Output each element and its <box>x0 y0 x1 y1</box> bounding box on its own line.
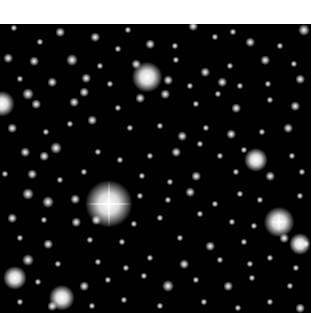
star <box>185 187 195 197</box>
star <box>22 188 34 200</box>
star <box>231 103 241 113</box>
star <box>265 171 275 181</box>
star <box>10 24 17 31</box>
star <box>211 33 218 40</box>
star <box>70 194 80 204</box>
star <box>81 73 91 83</box>
star <box>39 151 49 161</box>
star <box>211 200 218 207</box>
star <box>200 67 210 77</box>
star <box>266 298 273 305</box>
star <box>47 77 57 87</box>
star <box>86 236 93 243</box>
star <box>118 238 125 245</box>
star <box>16 298 23 305</box>
star <box>7 213 17 223</box>
star <box>114 104 121 111</box>
star <box>186 82 193 89</box>
bright-star <box>132 62 163 93</box>
bright-star <box>3 266 27 290</box>
star <box>31 99 41 109</box>
bright-star <box>244 148 268 172</box>
star <box>188 24 198 31</box>
star <box>130 220 137 227</box>
star <box>55 27 65 37</box>
star <box>16 234 23 241</box>
star-field-image <box>0 24 311 313</box>
star <box>22 88 34 100</box>
star <box>114 45 121 52</box>
star <box>16 75 23 82</box>
star <box>298 168 305 175</box>
star <box>248 274 255 281</box>
star <box>162 280 174 292</box>
star <box>172 56 179 63</box>
star <box>122 264 129 271</box>
star <box>214 90 221 97</box>
star <box>124 26 131 33</box>
star <box>216 152 223 159</box>
star <box>200 298 207 305</box>
star <box>126 124 133 131</box>
star <box>94 148 101 155</box>
bright-star <box>289 233 311 255</box>
star <box>54 260 61 267</box>
star <box>138 172 145 179</box>
star <box>250 222 257 229</box>
star <box>266 254 273 261</box>
star <box>104 276 111 283</box>
star <box>266 96 273 103</box>
star <box>176 234 183 241</box>
diffraction-spike <box>278 213 280 231</box>
star <box>90 32 100 42</box>
star <box>166 178 173 185</box>
star <box>145 39 155 49</box>
star <box>260 55 270 65</box>
star <box>87 115 97 125</box>
star <box>245 37 255 47</box>
star <box>283 123 293 133</box>
star <box>69 97 79 107</box>
star <box>228 218 235 225</box>
star <box>88 302 95 309</box>
star <box>156 214 163 221</box>
star <box>226 129 236 139</box>
star <box>217 77 227 87</box>
star <box>79 87 89 97</box>
star <box>1 170 8 177</box>
star <box>40 216 47 223</box>
star <box>36 38 43 45</box>
star <box>164 196 171 203</box>
star <box>20 147 30 157</box>
star <box>160 89 170 99</box>
star <box>171 147 181 157</box>
star <box>146 254 153 261</box>
star <box>66 54 78 66</box>
star <box>205 241 215 251</box>
star <box>42 196 54 208</box>
star <box>94 258 101 265</box>
star <box>179 259 189 269</box>
star <box>7 123 17 133</box>
star <box>236 190 243 197</box>
star <box>232 168 239 175</box>
star <box>202 124 209 131</box>
star <box>292 264 299 271</box>
star <box>80 168 87 175</box>
star <box>136 192 143 199</box>
star <box>240 238 247 245</box>
star <box>79 281 89 291</box>
star <box>71 217 81 227</box>
star <box>22 254 34 266</box>
star <box>236 82 243 89</box>
star <box>196 210 203 217</box>
bright-star <box>49 285 75 311</box>
star <box>50 142 62 154</box>
star <box>140 272 147 279</box>
star <box>256 196 263 203</box>
star <box>163 75 173 85</box>
star <box>296 192 303 199</box>
star <box>120 296 127 303</box>
star <box>3 53 13 63</box>
star <box>192 100 199 107</box>
